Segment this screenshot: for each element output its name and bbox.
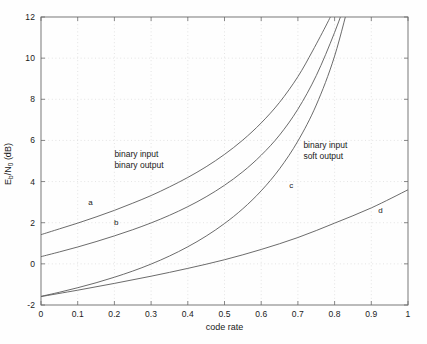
x-tick-0.8: 0.8 [329,309,341,319]
annotation-line-1: binary input [114,149,163,160]
annotation-binary-input-binary-output: binary inputbinary output [114,149,163,171]
curve-label-b: b [114,217,118,226]
x-tick-0: 0 [39,309,44,319]
curve-label-a: a [88,198,92,207]
curve-label-d: d [378,205,382,214]
annotation-binary-input-soft-output: binary inputsoft output [303,140,347,162]
annotation-line-2: soft output [303,151,347,162]
y-tick--2: -2 [27,300,35,310]
y-tick-4: 4 [30,177,35,187]
y-tick-0: 0 [30,259,35,269]
x-tick-0.6: 0.6 [255,309,267,319]
y-tick-12: 12 [25,12,35,22]
curve-label-c: c [289,180,293,189]
x-tick-1: 1 [406,309,411,319]
y-axis-title: Eb/N0 (dB) [1,118,15,210]
data-curves [41,0,408,297]
y-tick-8: 8 [30,94,35,104]
x-axis-title: code rate [206,322,244,332]
y-tick-6: 6 [30,135,35,145]
annotation-line-2: binary output [114,160,163,171]
x-tick-0.7: 0.7 [292,309,304,319]
x-tick-0.4: 0.4 [182,309,194,319]
y-tick-10: 10 [25,53,35,63]
x-tick-0.1: 0.1 [72,309,84,319]
plot-area [0,0,427,344]
x-tick-0.2: 0.2 [108,309,120,319]
x-tick-0.3: 0.3 [145,309,157,319]
x-tick-0.5: 0.5 [218,309,230,319]
figure-canvas: 00.10.20.30.40.50.60.70.80.91 -202468101… [0,0,427,344]
x-tick-0.9: 0.9 [365,309,377,319]
curve-b [41,0,371,257]
annotation-line-1: binary input [303,140,347,151]
grid-lines [41,17,408,305]
y-axis-title-text: Eb/N0 (dB) [3,143,13,185]
y-tick-2: 2 [30,218,35,228]
